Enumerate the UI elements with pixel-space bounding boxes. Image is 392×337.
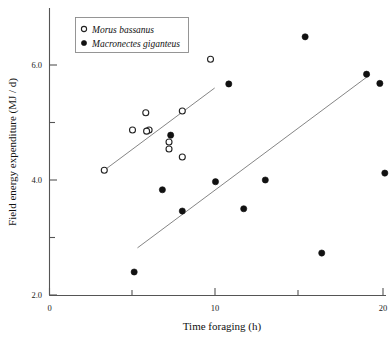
y-tick-label-6: 6.0 bbox=[31, 60, 42, 70]
data-point bbox=[159, 187, 165, 193]
data-point bbox=[179, 108, 185, 114]
data-point bbox=[212, 179, 218, 185]
y-axis-title: Field energy expenditure (MJ / d) bbox=[6, 78, 19, 226]
data-point bbox=[131, 269, 137, 275]
y-tick-label-2: 2.0 bbox=[31, 290, 42, 300]
regression-line-2 bbox=[137, 75, 369, 248]
legend-marker-open-circle-icon bbox=[81, 26, 86, 31]
data-point bbox=[241, 206, 247, 212]
data-point bbox=[179, 154, 185, 160]
legend: Morus bassanus Macronectes giganteus bbox=[76, 18, 189, 53]
x-tick-labels: 0 10 20 bbox=[47, 303, 387, 313]
data-points bbox=[101, 34, 388, 275]
data-point bbox=[130, 127, 136, 133]
x-tick-label-10: 10 bbox=[211, 303, 220, 313]
legend-label-morus-bassanus: Morus bassanus bbox=[91, 25, 154, 35]
x-axis-ticks bbox=[50, 288, 384, 296]
series-1 bbox=[101, 56, 213, 173]
data-point bbox=[168, 132, 174, 138]
data-point bbox=[208, 56, 214, 62]
series-2 bbox=[131, 34, 388, 275]
y-tick-label-4: 4.0 bbox=[31, 175, 42, 185]
data-point bbox=[226, 81, 232, 87]
data-point bbox=[144, 128, 150, 134]
data-point bbox=[101, 167, 107, 173]
data-point bbox=[166, 139, 172, 145]
x-axis-title: Time foraging (h) bbox=[183, 320, 262, 333]
scatter-chart: 6.0 4.0 2.0 0 10 20 Time foraging (h) Fi… bbox=[0, 0, 392, 337]
y-tick-labels: 6.0 4.0 2.0 bbox=[31, 60, 42, 300]
x-tick-label-20: 20 bbox=[379, 303, 388, 313]
data-point bbox=[302, 34, 308, 40]
data-point bbox=[262, 177, 268, 183]
data-point bbox=[363, 71, 369, 77]
legend-label-macronectes-giganteus: Macronectes giganteus bbox=[91, 39, 180, 49]
regression-lines bbox=[104, 75, 370, 248]
data-point bbox=[143, 110, 149, 116]
data-point bbox=[377, 80, 383, 86]
data-point bbox=[179, 208, 185, 214]
data-point bbox=[319, 250, 325, 256]
data-point bbox=[382, 170, 388, 176]
regression-line-1 bbox=[104, 88, 214, 170]
x-tick-label-0: 0 bbox=[47, 303, 51, 313]
legend-marker-filled-circle-icon bbox=[81, 40, 86, 45]
y-axis-ticks bbox=[50, 65, 58, 295]
data-point bbox=[166, 146, 172, 152]
